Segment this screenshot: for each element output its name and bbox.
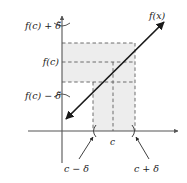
label-c: c [110, 138, 115, 147]
label-f-of-c-plus-delta: f(c) + δ̃ [25, 21, 61, 31]
label-c-minus-delta: c − δ [64, 164, 89, 174]
label-c-plus-delta: c + δ [134, 164, 159, 174]
label-f-of-c: f(c) [43, 57, 59, 67]
arrow-to-c-plus-delta [136, 137, 149, 159]
continuity-diagram-figure: f(c) + δ̃ f(c) f(c) − δ̃ f(x) c c − δ c … [0, 0, 187, 183]
label-f-of-x: f(x) [149, 11, 165, 21]
arrow-to-c-minus-delta [79, 137, 93, 159]
label-f-of-c-minus-delta: f(c) − δ̃ [25, 91, 61, 101]
